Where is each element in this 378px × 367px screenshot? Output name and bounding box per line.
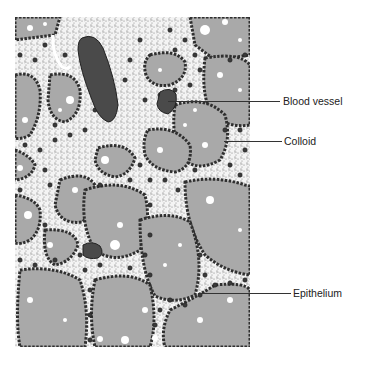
small-blood-vessel-lower <box>83 243 102 259</box>
label-colloid: Colloid <box>284 135 316 147</box>
thyroid-histology-diagram <box>0 0 378 367</box>
label-blood-vessel: Blood vessel <box>283 95 343 107</box>
label-epithelium: Epithelium <box>293 287 342 299</box>
tissue-panel <box>15 17 250 347</box>
leader-line-blood-vessel <box>168 101 280 102</box>
leader-line-colloid <box>224 141 282 142</box>
leader-line-epithelium <box>200 293 291 294</box>
